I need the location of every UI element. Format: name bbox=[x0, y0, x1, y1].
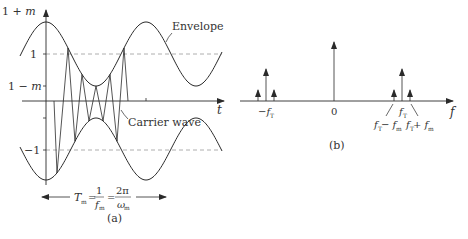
svg-text:m: m bbox=[124, 204, 130, 211]
f-axis-label: f bbox=[449, 105, 457, 119]
zero-label: 0 bbox=[331, 106, 337, 117]
y-label-one-minus-m: 1 − m bbox=[8, 80, 42, 93]
lower-sideband-leader bbox=[386, 104, 393, 116]
svg-text:m: m bbox=[99, 204, 105, 211]
svg-text:2π: 2π bbox=[116, 185, 129, 196]
neg-carrier-label: −f T bbox=[258, 106, 274, 119]
carrier-wave bbox=[54, 48, 128, 173]
panel-b-caption: (b) bbox=[329, 139, 345, 152]
svg-text:m: m bbox=[428, 125, 434, 132]
y-label-minus-one: −1 bbox=[24, 144, 40, 157]
svg-text:1: 1 bbox=[96, 185, 102, 196]
upper-sideband-leader bbox=[411, 104, 418, 116]
svg-text:T: T bbox=[270, 112, 274, 119]
y-label-one: 1 bbox=[30, 48, 37, 61]
svg-text:T: T bbox=[403, 112, 407, 119]
panel-a-caption: (a) bbox=[107, 212, 122, 225]
envelope-label: Envelope bbox=[172, 20, 224, 33]
svg-text:m: m bbox=[396, 125, 402, 132]
upper-sideband-label: f T + f m bbox=[405, 119, 434, 132]
period-formula: T m = 1 f m = 2π ω m bbox=[74, 185, 131, 211]
carrier-leader-line bbox=[121, 110, 128, 119]
carrier-freq-label: f T bbox=[398, 106, 407, 119]
svg-text:m: m bbox=[81, 198, 87, 205]
carrier-wave-label: Carrier wave bbox=[128, 116, 201, 129]
envelope-leader-line bbox=[166, 33, 172, 42]
panel-b-spectrum: −f T 0 f T f T − f m f T + f m f (b) bbox=[240, 42, 457, 152]
lower-sideband-label: f T − f m bbox=[373, 119, 402, 132]
y-label-one-plus-m: 1 + m bbox=[2, 5, 36, 18]
svg-text:=: = bbox=[107, 192, 115, 203]
am-diagram: 1 + m 1 1 − m −1 t Envelope Carrier wave… bbox=[0, 0, 468, 239]
panel-a-time-domain: 1 + m 1 1 − m −1 t Envelope Carrier wave… bbox=[2, 5, 224, 225]
t-axis-label: t bbox=[217, 103, 222, 117]
